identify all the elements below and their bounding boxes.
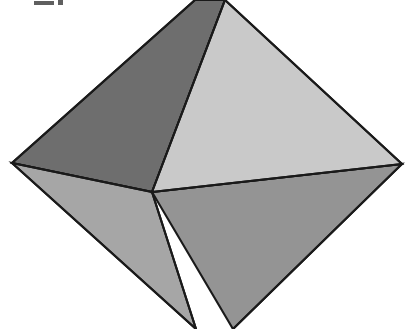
- octahedron-illustration: [0, 0, 407, 329]
- polyhedron-figure: Octahedron: [0, 0, 407, 329]
